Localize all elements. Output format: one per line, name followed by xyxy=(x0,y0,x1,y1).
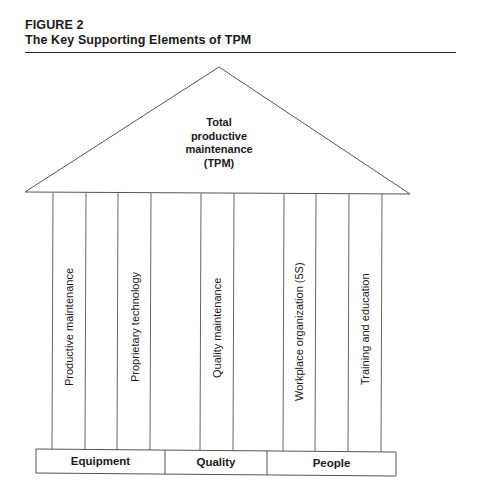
pillar-line xyxy=(233,193,234,450)
roof-label: Total productive maintenance (TPM) xyxy=(169,116,269,170)
pillar-line xyxy=(52,193,53,449)
pillar-line xyxy=(315,194,316,451)
pillar-line xyxy=(348,194,349,452)
pillar-line xyxy=(283,194,284,451)
foundation-label-people: People xyxy=(267,457,396,469)
pillar-label-proprietary-technology: Proprietary technology xyxy=(129,272,141,382)
roof-line: Total xyxy=(169,116,269,130)
roof-line: maintenance xyxy=(169,143,269,157)
tpm-house-diagram xyxy=(0,0,477,497)
pillar-label-quality-maintenance: Quality maintenance xyxy=(211,278,223,378)
pillar-label-training-education: Training and education xyxy=(359,273,371,385)
pillar-label-productive-maintenance: Productive maintenance xyxy=(63,268,75,386)
pillar-line xyxy=(381,194,382,452)
pillar-label-workplace-organization: Workplace organization (5S) xyxy=(293,262,305,401)
pillar-line xyxy=(200,193,201,450)
pillar-line xyxy=(117,193,118,450)
foundation-label-quality: Quality xyxy=(165,456,267,468)
pillar-line xyxy=(85,193,86,449)
roof-line: (TPM) xyxy=(169,157,269,171)
roof-line: productive xyxy=(169,130,269,144)
foundation-label-equipment: Equipment xyxy=(36,455,165,467)
pillar-line xyxy=(150,193,151,450)
